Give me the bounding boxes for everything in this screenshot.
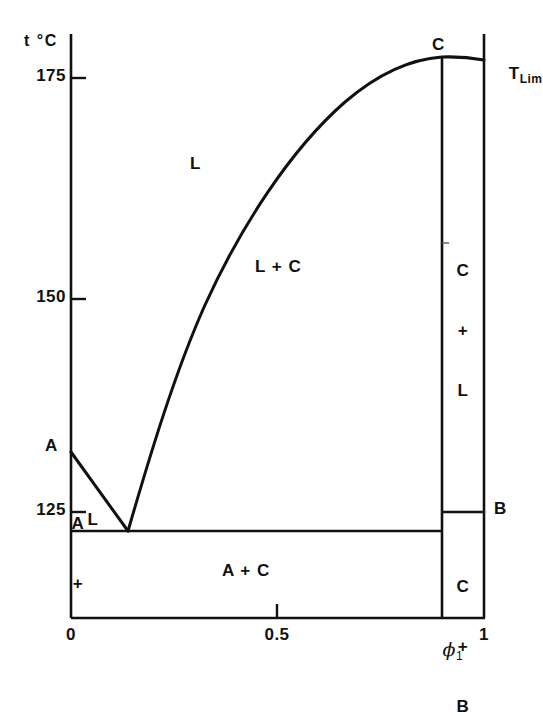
- region-c-plus-b-line-2: +: [446, 637, 480, 657]
- region-c-plus-l-line-2: +: [446, 321, 480, 341]
- point-label-a: A: [45, 437, 58, 455]
- x-tick-label-0-5: 0.5: [256, 626, 298, 644]
- region-label-liquid-plus-c: L + C: [255, 258, 302, 276]
- region-label-a-plus-l-tail: L: [82, 510, 104, 530]
- region-c-plus-l-line-3: L: [446, 381, 480, 401]
- region-label-a-plus-c: A + C: [222, 562, 270, 580]
- t-lim-main: T: [509, 64, 520, 83]
- region-c-plus-b-line-1: C: [446, 577, 480, 597]
- t-lim-label: TLim: [489, 48, 543, 99]
- t-lim-subscript: Lim: [520, 72, 543, 86]
- region-c-plus-b-line-3: B: [446, 697, 480, 716]
- point-label-b: B: [494, 500, 507, 518]
- region-label-c-plus-b: C + B: [446, 537, 480, 716]
- region-label-liquid: L: [190, 155, 201, 173]
- region-label-c-plus-l: C + L: [446, 221, 480, 442]
- y-tick-label-175: 175: [22, 67, 66, 85]
- region-c-plus-l-line-1: C: [446, 261, 480, 281]
- y-axis-title: t °C: [24, 33, 58, 50]
- liquidus-c-curve: [128, 57, 484, 531]
- point-label-c: C: [432, 36, 445, 54]
- y-tick-label-150: 150: [22, 288, 66, 306]
- region-a-plus-l-line-2: +: [60, 574, 96, 594]
- region-label-a-plus-l: A +: [60, 474, 96, 634]
